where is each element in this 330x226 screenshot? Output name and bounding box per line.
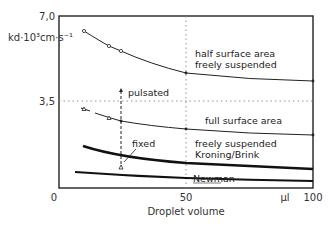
- x-tick-100: 100: [303, 192, 322, 203]
- chart-canvas: half surface area freely suspended pulsa…: [0, 0, 330, 226]
- y-tick-3.5: 3,5: [39, 96, 55, 107]
- label-kroning-brink: Kroning/Brink: [195, 149, 260, 160]
- label-freely-suspended: freely suspended: [195, 138, 277, 149]
- x-unit-label: µl: [280, 192, 289, 203]
- pulsated-arrow-top: [119, 88, 123, 92]
- y-tick-7: 7,0: [39, 11, 55, 22]
- y-axis-title: kd·10³cm·s⁻¹: [8, 32, 73, 43]
- label-pulsated: pulsated: [128, 87, 169, 98]
- half-surface-marker-100: [312, 80, 315, 83]
- full-surface-marker-50: [185, 128, 188, 131]
- x-tick-0: 0: [51, 192, 57, 203]
- label-half-freely: freely suspended: [195, 59, 277, 70]
- label-half-surface: half surface area: [195, 48, 275, 59]
- label-full-surface: full surface area: [205, 115, 282, 126]
- label-fixed: fixed: [132, 138, 155, 149]
- pulsated-marker-bottom: [119, 165, 123, 169]
- full-surface-marker-100: [312, 134, 315, 137]
- label-newman: Newman: [193, 173, 235, 184]
- x-tick-50: 50: [180, 192, 193, 203]
- half-surface-marker-50: [185, 72, 188, 75]
- x-axis-title: Droplet volume: [147, 206, 224, 217]
